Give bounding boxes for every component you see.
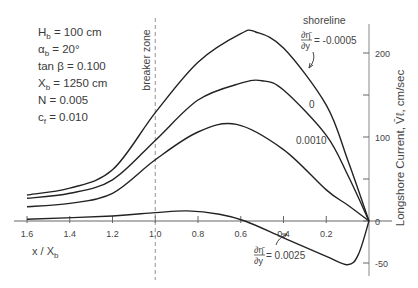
longshore-current-chart: 1.61.41.21.00.80.60.40.2x / Xb-500100200… — [0, 0, 418, 288]
zero-curve-label: 0 — [309, 99, 315, 110]
third-curve-label: 0.0010 — [296, 135, 327, 146]
svg-text:∂y: ∂y — [301, 41, 310, 51]
y-tick-label: 100 — [375, 133, 390, 143]
x-tick-label: 1.6 — [21, 229, 34, 239]
x-tick-label: 1.2 — [106, 229, 119, 239]
svg-text:∂η̄: ∂η̄ — [301, 30, 312, 40]
svg-text:∂η̄: ∂η̄ — [254, 245, 265, 255]
y-tick-label: 200 — [375, 49, 390, 59]
x-axis-label: x / Xb — [32, 245, 59, 260]
bottom-curve-label: = 0.0025 — [266, 250, 306, 261]
x-tick-label: 1.4 — [63, 229, 76, 239]
top-curve-fraction: ∂η̄∂y — [301, 30, 312, 51]
x-tick-label: 0.6 — [234, 229, 247, 239]
y-tick-label: 0 — [375, 217, 380, 227]
breaker-zone-label: breaker zone — [140, 29, 152, 90]
top-curve-label: = -0.0005 — [314, 35, 357, 46]
x-tick-label: 0.2 — [320, 229, 333, 239]
axes: 1.61.41.21.00.80.60.40.2x / Xb-500100200… — [14, 18, 406, 280]
x-tick-label: 0.8 — [192, 229, 205, 239]
y-tick-label: -50 — [375, 259, 388, 269]
y-axis-label: Longshore Current, V̄ℓ, cm/sec — [394, 70, 406, 227]
curve-1 — [27, 80, 369, 221]
bottom-curve-fraction: ∂η̄∂y — [254, 245, 265, 266]
svg-text:∂y: ∂y — [254, 256, 263, 266]
shoreline-label: shoreline — [303, 14, 346, 26]
